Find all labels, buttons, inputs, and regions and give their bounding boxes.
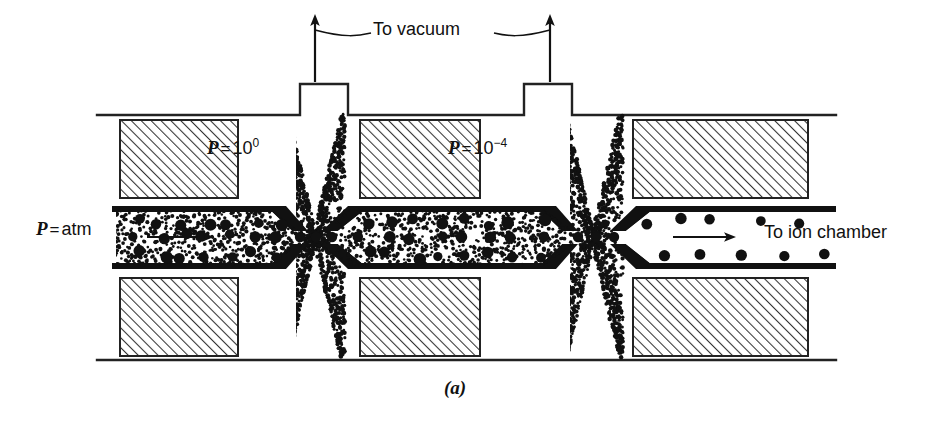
stipple-dot <box>147 246 150 249</box>
spray-dot <box>289 269 292 272</box>
spray-dot <box>605 206 608 209</box>
spray-dot <box>614 271 617 274</box>
spray-dot <box>291 315 294 318</box>
stipple-dot <box>433 241 437 245</box>
spray-dot <box>563 119 566 122</box>
spray-dot <box>337 207 340 210</box>
stipple-dot <box>406 253 410 257</box>
spray-dot <box>601 188 605 192</box>
spray-dot <box>332 293 336 297</box>
stipple-dot <box>179 214 182 217</box>
stipple-dot <box>134 256 137 259</box>
spray-dot <box>576 261 580 265</box>
spray-dot <box>285 297 289 301</box>
stipple-dot <box>430 246 433 249</box>
spray-dot <box>564 150 568 154</box>
pressure-equals: = <box>460 139 474 158</box>
spray-dot <box>336 191 340 195</box>
spray-dot <box>321 208 325 212</box>
stipple-dot <box>506 244 509 247</box>
stipple-dot <box>429 243 432 246</box>
spray-dot <box>565 164 568 167</box>
stipple-dot <box>493 210 497 214</box>
stipple-dot <box>258 209 261 212</box>
spray-dot <box>568 347 571 350</box>
stipple-dot <box>254 263 257 266</box>
stipple-dot <box>531 212 534 215</box>
spray-dot <box>566 175 570 179</box>
spray-dot <box>610 157 613 160</box>
spray-dot <box>286 280 290 284</box>
spray-dot <box>588 243 592 247</box>
spray-dot <box>340 329 343 332</box>
spray-dot <box>563 318 567 322</box>
stipple-dot <box>475 211 479 215</box>
spray-dot <box>289 277 293 281</box>
spray-dot <box>287 282 291 286</box>
spray-dot <box>290 334 293 337</box>
particle <box>484 231 496 243</box>
spray-dot <box>562 135 566 139</box>
spray-dot <box>304 285 307 288</box>
spray-dot <box>620 265 624 269</box>
stipple-dot <box>233 241 236 244</box>
spray-dot <box>322 278 326 282</box>
spray-dot <box>303 217 306 220</box>
stipple-dot <box>362 216 366 220</box>
stipple-dot <box>403 227 407 231</box>
spray-dot <box>563 321 567 325</box>
spray-dot <box>299 166 303 170</box>
stipple-dot <box>364 262 367 265</box>
spray-dot <box>565 174 569 178</box>
spray-dot <box>341 170 345 174</box>
stipple-dot <box>123 237 127 241</box>
spray-dot <box>292 191 296 195</box>
spray-dot <box>340 123 343 126</box>
stipple-dot <box>495 259 498 262</box>
spray-dot <box>564 343 567 346</box>
spray-dot <box>285 355 289 359</box>
spray-dot <box>563 135 567 139</box>
spray-dot <box>563 290 566 293</box>
spray-dot <box>577 252 581 256</box>
stipple-dot <box>447 212 450 215</box>
spray-dot <box>289 324 293 328</box>
stipple-dot <box>204 263 207 266</box>
stipple-dot <box>403 258 406 261</box>
spray-dot <box>615 294 619 298</box>
spray-dot <box>284 311 287 314</box>
stipple-dot <box>223 216 226 219</box>
stipple-dot <box>285 234 288 237</box>
spray-dot <box>287 335 290 338</box>
spray-dot <box>565 144 569 148</box>
spray-dot <box>287 327 291 331</box>
stipple-dot <box>120 215 124 219</box>
spray-dot <box>562 144 567 149</box>
spray-dot <box>336 321 339 324</box>
spray-dot <box>342 312 346 316</box>
spray-dot <box>285 156 289 160</box>
spray-dot <box>618 175 622 179</box>
spray-dot <box>343 146 346 149</box>
spray-dot <box>565 341 568 344</box>
spray-dot <box>290 332 294 336</box>
spray-dot <box>298 196 301 199</box>
spray-dot <box>562 327 566 331</box>
spray-dot <box>565 121 569 125</box>
spray-dot <box>566 289 569 292</box>
spray-dot <box>601 200 605 204</box>
stipple-dot <box>217 245 221 249</box>
spray-dot <box>563 348 566 351</box>
stipple-dot <box>534 246 537 249</box>
stipple-dot <box>348 234 351 237</box>
spray-dot <box>289 172 292 175</box>
spray-dot <box>302 210 306 214</box>
spray-dot <box>290 160 293 163</box>
spray-dot <box>609 303 612 306</box>
spray-dot <box>569 170 572 173</box>
spray-dot <box>562 154 566 158</box>
spray-dot <box>295 322 299 326</box>
stipple-dot <box>488 262 491 265</box>
spray-dot <box>331 156 335 160</box>
stipple-dot <box>403 244 406 247</box>
